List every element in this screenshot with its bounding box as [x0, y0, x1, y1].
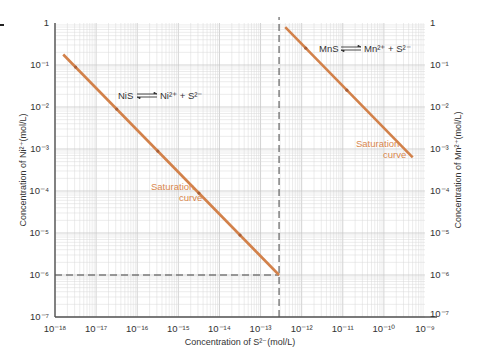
left-y-tick-label: 10⁻²	[30, 101, 49, 112]
x-tick-label: 10⁻¹⁶	[126, 323, 149, 334]
solubility-chart: 10⁻¹⁸10⁻¹⁷10⁻¹⁶10⁻¹⁵10⁻¹⁴10⁻¹³10⁻¹²10⁻¹¹…	[0, 0, 478, 364]
x-tick-label: 10⁻¹³	[250, 323, 272, 334]
reference-dashed-lines	[55, 17, 279, 317]
left-y-tick-label: 10⁻⁶	[30, 269, 50, 280]
mns-reactant: MnS	[319, 43, 339, 54]
nis-equation-annotation: NiS Ni²⁺ + S²⁻	[118, 90, 202, 101]
equilibrium-arrows-icon	[137, 92, 157, 98]
left-y-tick-label: 10⁻⁴	[29, 185, 49, 196]
x-tick-label: 10⁻⁹	[415, 323, 435, 334]
left-y-tick-label: 1	[44, 17, 49, 28]
curve-marker	[304, 47, 307, 50]
saturation-label-line2: curve	[383, 149, 406, 160]
x-axis-tick-labels: 10⁻¹⁸10⁻¹⁷10⁻¹⁶10⁻¹⁵10⁻¹⁴10⁻¹³10⁻¹²10⁻¹¹…	[44, 323, 435, 334]
x-tick-label: 10⁻¹⁴	[208, 323, 231, 334]
equilibrium-arrows-icon	[341, 45, 361, 51]
grid	[55, 23, 425, 317]
right-y-axis-tick-labels: 110⁻¹10⁻²10⁻³10⁻⁴10⁻⁵10⁻⁶10⁻⁷	[430, 17, 450, 319]
left-y-tick-label: 10⁻¹	[30, 59, 49, 70]
right-y-tick-label: 10⁻²	[430, 101, 449, 112]
right-y-tick-label: 10⁻¹	[430, 59, 449, 70]
nis-saturation-curve	[63, 55, 279, 276]
x-tick-label: 10⁻¹⁸	[44, 323, 67, 334]
saturation-label-line1: Saturation	[151, 181, 194, 192]
curve-marker	[238, 234, 241, 237]
left-y-tick-label: 10⁻⁷	[30, 311, 50, 322]
right-y-tick-label: 10⁻⁵	[430, 227, 450, 238]
curve-marker	[345, 89, 348, 92]
left-y-axis-tick-labels: 110⁻¹10⁻²10⁻³10⁻⁴10⁻⁵10⁻⁶10⁻⁷	[29, 17, 49, 322]
x-tick-label: 10⁻¹⁷	[85, 323, 108, 334]
x-tick-label: 10⁻¹²	[291, 323, 313, 334]
x-tick-label: 10⁻¹¹	[332, 323, 354, 334]
right-y-tick-label: 1	[430, 17, 435, 28]
x-tick-label: 10⁻¹⁵	[167, 323, 190, 334]
left-y-tick-label: 10⁻³	[30, 143, 49, 154]
right-y-tick-label: 10⁻⁷	[430, 308, 450, 319]
nis-reactant: NiS	[118, 90, 133, 101]
nis-products: Ni²⁺ + S²⁻	[160, 90, 202, 101]
left-y-axis-label: Concentration of Ni²⁺(mol/L)	[18, 113, 28, 226]
right-y-tick-label: 10⁻⁴	[430, 185, 450, 196]
mns-equation-annotation: MnS Mn²⁺ + S²⁻	[319, 43, 411, 54]
right-y-axis-label: Concentration of Mn²⁺(mol/L)	[453, 111, 463, 228]
x-tick-label: 10⁻¹⁰	[373, 323, 396, 334]
right-y-tick-label: 10⁻³	[430, 143, 449, 154]
x-axis-label: Concentration of S²⁻(mol/L)	[185, 337, 296, 347]
curve-marker	[115, 108, 118, 111]
curve-line	[63, 55, 279, 276]
mns-products: Mn²⁺ + S²⁻	[364, 43, 411, 54]
curve-marker	[74, 66, 77, 69]
saturation-label-line2: curve	[179, 192, 202, 203]
left-y-tick-label: 10⁻⁵	[29, 227, 49, 238]
right-y-tick-label: 10⁻⁶	[430, 269, 450, 280]
saturation-label-line1: Saturation	[356, 138, 399, 149]
curve-marker	[156, 150, 159, 153]
